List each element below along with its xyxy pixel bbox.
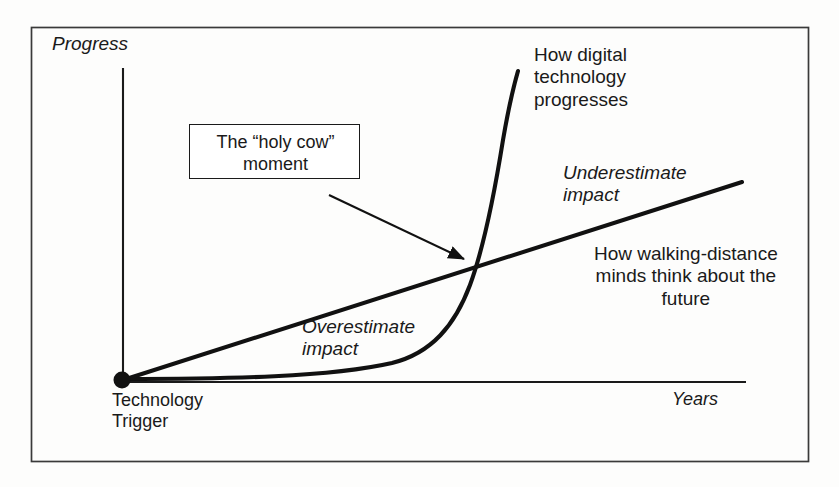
x-axis-label: Years xyxy=(672,389,718,410)
holy-cow-callout-text: The “holy cow” moment xyxy=(190,131,361,176)
callout-arrow xyxy=(329,195,464,259)
y-axis-label: Progress xyxy=(52,33,128,55)
linear-line-label: How walking-distance minds think about t… xyxy=(594,243,778,310)
origin-marker-dot xyxy=(114,372,131,389)
underestimate-impact-label: Underestimate impact xyxy=(563,162,687,207)
holy-cow-callout-box: The “holy cow” moment xyxy=(189,124,360,179)
overestimate-impact-label: Overestimate impact xyxy=(302,316,415,361)
exponential-curve-label: How digital technology progresses xyxy=(534,44,628,111)
figure-canvas: Progress Years Technology Trigger How di… xyxy=(0,0,839,487)
technology-trigger-label: Technology Trigger xyxy=(112,390,203,432)
